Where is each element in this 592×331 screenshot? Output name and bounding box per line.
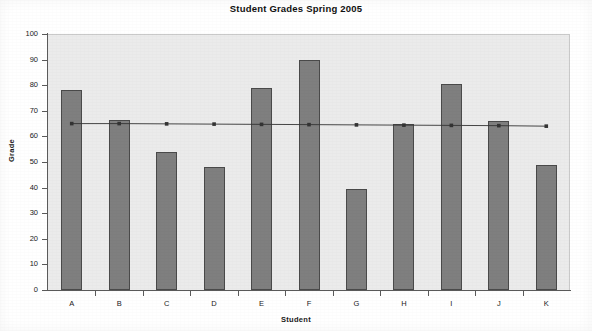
x-axis-tick [95, 291, 96, 296]
x-axis-line [47, 290, 571, 291]
bar [441, 84, 462, 290]
chart-title: Student Grades Spring 2005 [0, 3, 592, 14]
y-axis-tick [42, 188, 48, 189]
y-axis-tick [42, 136, 48, 137]
x-axis-tick [428, 291, 429, 296]
bar [156, 152, 177, 290]
bar [393, 124, 414, 290]
y-axis-tick-label: 90 [14, 56, 38, 64]
chart-figure: Student Grades Spring 2005 0102030405060… [0, 0, 592, 331]
bar [488, 121, 509, 290]
x-axis-tick [190, 291, 191, 296]
y-axis-tick [42, 60, 48, 61]
y-axis-tick-label: 10 [14, 261, 38, 269]
y-axis-tick [42, 213, 48, 214]
y-axis-tick-label: 40 [14, 184, 38, 192]
x-axis-tick [523, 291, 524, 296]
x-axis-tick-label: E [247, 299, 277, 308]
y-axis-tick [42, 264, 48, 265]
y-axis-title: Grade [7, 121, 16, 181]
y-axis-tick-label: 30 [14, 209, 38, 217]
x-axis-tick [333, 291, 334, 296]
x-axis-tick-label: K [531, 299, 561, 308]
bar [346, 189, 367, 290]
bar [61, 90, 82, 290]
x-axis-tick-label: J [484, 299, 514, 308]
y-axis-tick-label: 100 [14, 30, 38, 38]
x-axis-tick-label: C [152, 299, 182, 308]
y-axis-tick [42, 34, 48, 35]
y-axis-tick-label: 50 [14, 158, 38, 166]
x-axis-tick-label: A [57, 299, 87, 308]
x-axis-tick-label: D [199, 299, 229, 308]
x-axis-tick [475, 291, 476, 296]
y-axis-tick-label: 60 [14, 133, 38, 141]
y-axis-tick-label: 0 [14, 286, 38, 294]
x-axis-tick-label: B [104, 299, 134, 308]
bar [251, 88, 272, 290]
y-axis-tick-label: 20 [14, 235, 38, 243]
x-axis-tick [238, 291, 239, 296]
y-axis-tick [42, 239, 48, 240]
x-axis-tick-label: I [436, 299, 466, 308]
x-axis-tick-label: G [341, 299, 371, 308]
bar [536, 165, 557, 290]
y-axis-tick [42, 290, 48, 291]
bar [299, 60, 320, 290]
y-axis-tick-label: 70 [14, 107, 38, 115]
y-axis-tick [42, 111, 48, 112]
x-axis-tick [285, 291, 286, 296]
x-axis-tick-label: F [294, 299, 324, 308]
bar [204, 167, 225, 290]
x-axis-tick [380, 291, 381, 296]
y-axis-tick [42, 85, 48, 86]
y-axis-tick [42, 162, 48, 163]
bar [109, 120, 130, 290]
x-axis-tick [143, 291, 144, 296]
x-axis-title: Student [0, 315, 592, 324]
x-axis-tick-label: H [389, 299, 419, 308]
y-axis-tick-label: 80 [14, 81, 38, 89]
